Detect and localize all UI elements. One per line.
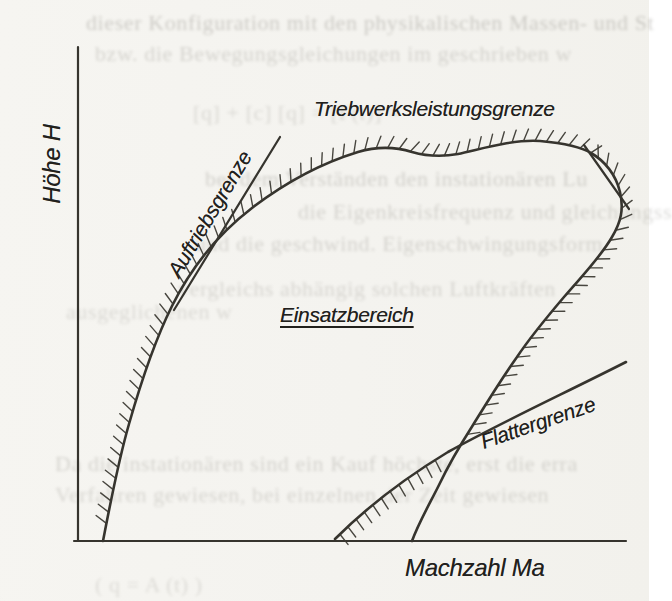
flight-envelope-boundary-curve [103,141,622,541]
hatch-tick [354,141,356,154]
hatch-tick [343,144,345,157]
hatch-tick [373,505,380,516]
hatch-tick [410,142,419,152]
hatch-tick [340,534,348,544]
hatch-tick [591,146,602,153]
hatch-tick [96,516,106,524]
x-axis-label: Machzahl Ma [405,554,544,582]
hatch-tick [138,358,147,367]
hatch-tick [123,403,133,412]
y-axis-label: Höhe H [38,124,66,204]
hatch-tick [290,169,291,182]
flutter-limit-line [335,362,626,539]
hatch-tick [417,472,423,483]
hatch-tick [621,187,630,197]
hatch-tick [512,130,516,142]
engine-performance-limit-label: Triebwerksleistungsgrenze [314,97,555,121]
hatch-tick [146,336,155,346]
hatch-tick [101,493,111,501]
hatch-tick [444,144,449,156]
hatch-tick [155,315,163,325]
hatch-tick [241,202,244,215]
hatch-tick [117,425,127,434]
hatch-tick [171,283,178,294]
hatch-tick [280,175,281,188]
hatch-tick [142,347,151,356]
hatch-tick [127,392,136,401]
hatch-tick [426,466,432,478]
hatch-tick [322,153,323,166]
hatch-tick [501,132,505,145]
hatch-tick [356,519,364,530]
hatch-tick [535,129,541,141]
hatch-tick [364,512,372,523]
hatch-tick [607,153,609,166]
hatch-tick [388,137,394,148]
hatch-tick [120,414,130,423]
hatch-tick [408,478,414,489]
hatch-tick [251,195,253,208]
hatch-tick [558,132,566,143]
hatch-tick [435,460,441,472]
hatch-tick [530,338,543,339]
hatch-ticks-group [96,129,632,544]
hatch-tick [130,380,139,389]
hatch-tick [524,129,529,141]
hatch-tick [260,188,262,201]
hatch-tick [270,181,272,194]
hatch-tick [165,294,173,305]
hatch-tick [332,148,333,161]
hatch-tick [569,135,577,145]
hatch-tick [422,144,430,155]
hatch-tick [114,436,124,445]
upper-right-tangent-line [584,145,629,209]
hatch-tick [160,304,168,314]
hatch-tick [150,326,159,336]
hatch-tick [381,498,388,509]
hatch-tick [399,139,407,150]
hatch-tick [399,485,406,496]
hatch-tick [98,504,108,512]
hatch-tick [618,175,625,186]
hatch-tick [613,163,618,175]
hatch-tick [111,448,121,456]
hatch-tick [390,491,397,502]
hatch-tick [348,527,356,537]
hatch-tick [103,482,113,490]
hatch-tick [134,369,143,378]
hatch-tick [376,136,381,148]
hatch-tick [105,470,115,478]
hatch-tick [546,131,553,142]
hatch-tick [108,459,118,467]
hatch-tick [433,144,439,155]
operating-region-label: Einsatzbereich [280,303,414,327]
